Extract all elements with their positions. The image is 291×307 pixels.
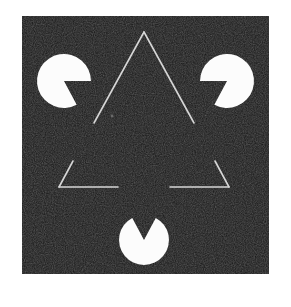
center-speck xyxy=(111,115,114,118)
kanizsa-figure-root xyxy=(0,0,291,307)
kanizsa-figure-svg xyxy=(0,0,291,307)
